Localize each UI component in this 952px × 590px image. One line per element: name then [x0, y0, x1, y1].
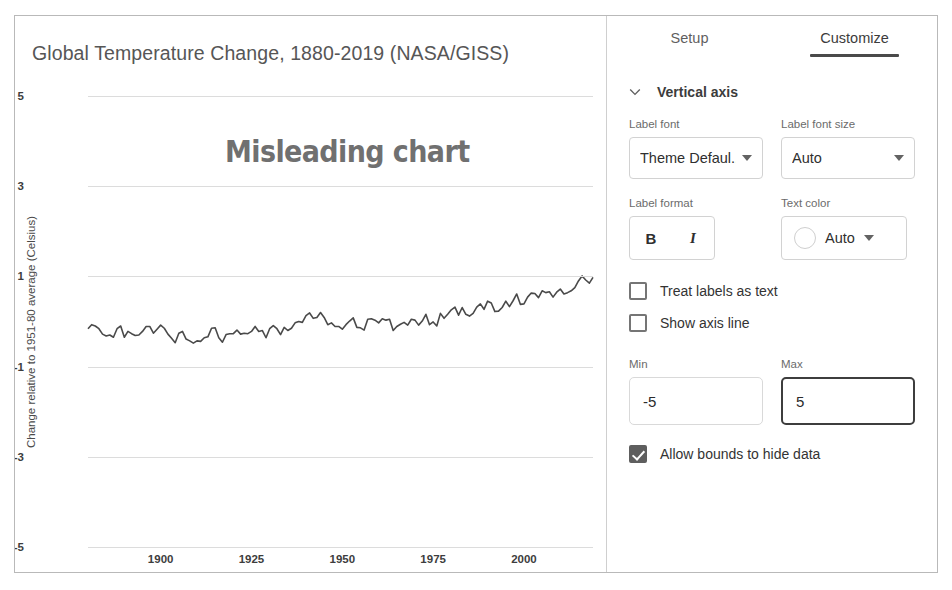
- gridline: [88, 367, 593, 368]
- show-axis-line-row[interactable]: Show axis line: [629, 314, 915, 332]
- format-row: Label format B I Text color Auto: [629, 197, 915, 260]
- max-group: Max 5: [781, 358, 915, 425]
- font-row: Label font Theme Defaul... Label font si…: [629, 118, 915, 179]
- min-value: -5: [643, 393, 656, 410]
- sidebar-tabs: Setup Customize: [607, 16, 937, 68]
- text-color-value: Auto: [825, 230, 855, 246]
- text-color-picker[interactable]: Auto: [781, 216, 907, 260]
- chevron-down-icon: [894, 155, 904, 161]
- show-axis-line-checkbox[interactable]: [629, 314, 647, 332]
- italic-button[interactable]: I: [672, 230, 714, 247]
- gridline: [88, 547, 593, 548]
- label-format-buttons: B I: [629, 216, 715, 260]
- color-swatch-icon: [794, 227, 816, 249]
- chevron-down-icon: [627, 84, 643, 100]
- allow-bounds-to-hide-data-row[interactable]: Allow bounds to hide data: [629, 445, 915, 463]
- min-input[interactable]: -5: [629, 377, 763, 425]
- tab-setup[interactable]: Setup: [607, 30, 772, 57]
- y-axis-tick-label: 5: [15, 90, 24, 102]
- label-font-label: Label font: [629, 118, 763, 130]
- y-axis-tick-label: -3: [15, 451, 24, 463]
- label-format-label: Label format: [629, 197, 763, 209]
- temperature-line-series: [88, 96, 593, 547]
- label-font-size-group: Label font size Auto: [781, 118, 915, 179]
- min-group: Min -5: [629, 358, 763, 425]
- label-font-select[interactable]: Theme Defaul...: [629, 137, 763, 179]
- label-font-size-value: Auto: [792, 150, 822, 166]
- treat-labels-as-text-label: Treat labels as text: [660, 283, 778, 299]
- gridline: [88, 96, 593, 97]
- y-axis-tick-label: -5: [15, 541, 24, 553]
- treat-labels-as-text-row[interactable]: Treat labels as text: [629, 282, 915, 300]
- chart-title: Global Temperature Change, 1880-2019 (NA…: [32, 42, 509, 65]
- label-font-value: Theme Defaul...: [640, 150, 736, 166]
- checkbox-group: Treat labels as text Show axis line: [629, 282, 915, 332]
- max-label: Max: [781, 358, 915, 370]
- label-format-group: Label format B I: [629, 197, 763, 260]
- chart-editor-window: Global Temperature Change, 1880-2019 (NA…: [14, 15, 938, 573]
- customize-sidebar: Setup Customize Vertical axis Label font…: [607, 16, 937, 572]
- x-axis-tick-label: 1900: [148, 553, 174, 565]
- text-color-label: Text color: [781, 197, 915, 209]
- y-axis-tick-label: 1: [15, 270, 24, 282]
- chevron-down-icon: [864, 235, 874, 241]
- y-axis-tick-label: -1: [15, 361, 24, 373]
- plot-area: [88, 96, 593, 547]
- text-color-group: Text color Auto: [781, 197, 915, 260]
- x-axis-tick-label: 2000: [511, 553, 537, 565]
- allow-bounds-to-hide-data-label: Allow bounds to hide data: [660, 446, 820, 462]
- max-value: 5: [796, 393, 804, 410]
- treat-labels-as-text-checkbox[interactable]: [629, 282, 647, 300]
- bounds-row: Min -5 Max 5: [629, 358, 915, 425]
- show-axis-line-label: Show axis line: [660, 315, 750, 331]
- gridline: [88, 457, 593, 458]
- y-axis-tick-label: 3: [15, 180, 24, 192]
- chevron-down-icon: [742, 155, 752, 161]
- gridline: [88, 276, 593, 277]
- vertical-axis-section-header[interactable]: Vertical axis: [607, 68, 937, 100]
- label-font-size-select[interactable]: Auto: [781, 137, 915, 179]
- gridline: [88, 186, 593, 187]
- x-axis-tick-label: 1950: [330, 553, 356, 565]
- bold-button[interactable]: B: [630, 230, 672, 247]
- vertical-axis-section-body: Label font Theme Defaul... Label font si…: [607, 118, 937, 463]
- x-axis-tick-label: 1925: [239, 553, 265, 565]
- min-label: Min: [629, 358, 763, 370]
- y-axis-title: Change relative to 1951-80 average (Cels…: [25, 167, 37, 497]
- chart-preview-pane[interactable]: Global Temperature Change, 1880-2019 (NA…: [15, 16, 607, 572]
- max-input[interactable]: 5: [781, 377, 915, 425]
- tab-customize[interactable]: Customize: [772, 30, 937, 57]
- label-font-group: Label font Theme Defaul...: [629, 118, 763, 179]
- allow-bounds-to-hide-data-checkbox[interactable]: [629, 445, 647, 463]
- x-axis-tick-label: 1975: [420, 553, 446, 565]
- label-font-size-label: Label font size: [781, 118, 915, 130]
- vertical-axis-section-label: Vertical axis: [657, 84, 738, 100]
